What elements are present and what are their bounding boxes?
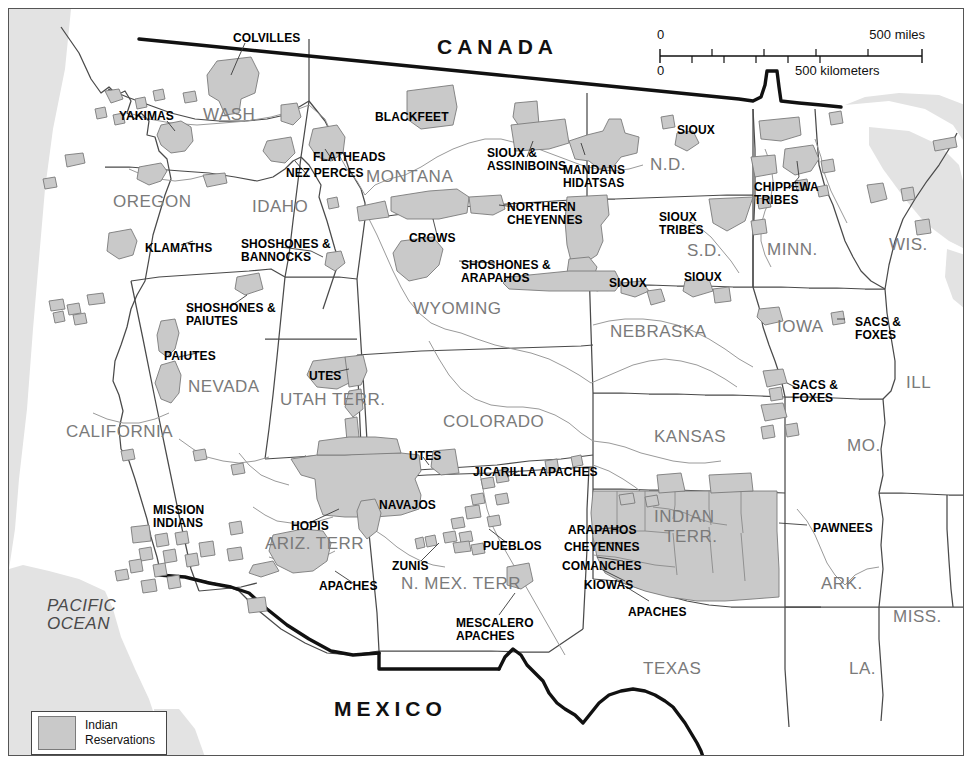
legend-label-line1: Indian — [85, 718, 155, 733]
legend-reservation-swatch — [38, 716, 76, 750]
map-geometry — [9, 9, 964, 756]
map-legend: Indian Reservations — [31, 711, 167, 755]
map-frame: CANADAMEXICOPACIFICOCEANWASHOREGONIDAHOM… — [8, 8, 964, 756]
scale-km-max: 500 kilometers — [795, 63, 880, 78]
scale-miles-zero: 0 — [657, 27, 664, 42]
scale-bar-ruler — [657, 45, 925, 67]
national-borders — [139, 39, 841, 756]
scale-km-zero: 0 — [657, 63, 664, 78]
scale-bar: 0 500 miles 0 500 kilometers — [657, 27, 925, 81]
map-figure: CANADAMEXICOPACIFICOCEANWASHOREGONIDAHOM… — [0, 0, 972, 773]
indian-reservations — [43, 57, 957, 613]
legend-label: Indian Reservations — [85, 718, 155, 748]
legend-label-line2: Reservations — [85, 733, 155, 748]
scale-miles-max: 500 miles — [869, 27, 925, 42]
